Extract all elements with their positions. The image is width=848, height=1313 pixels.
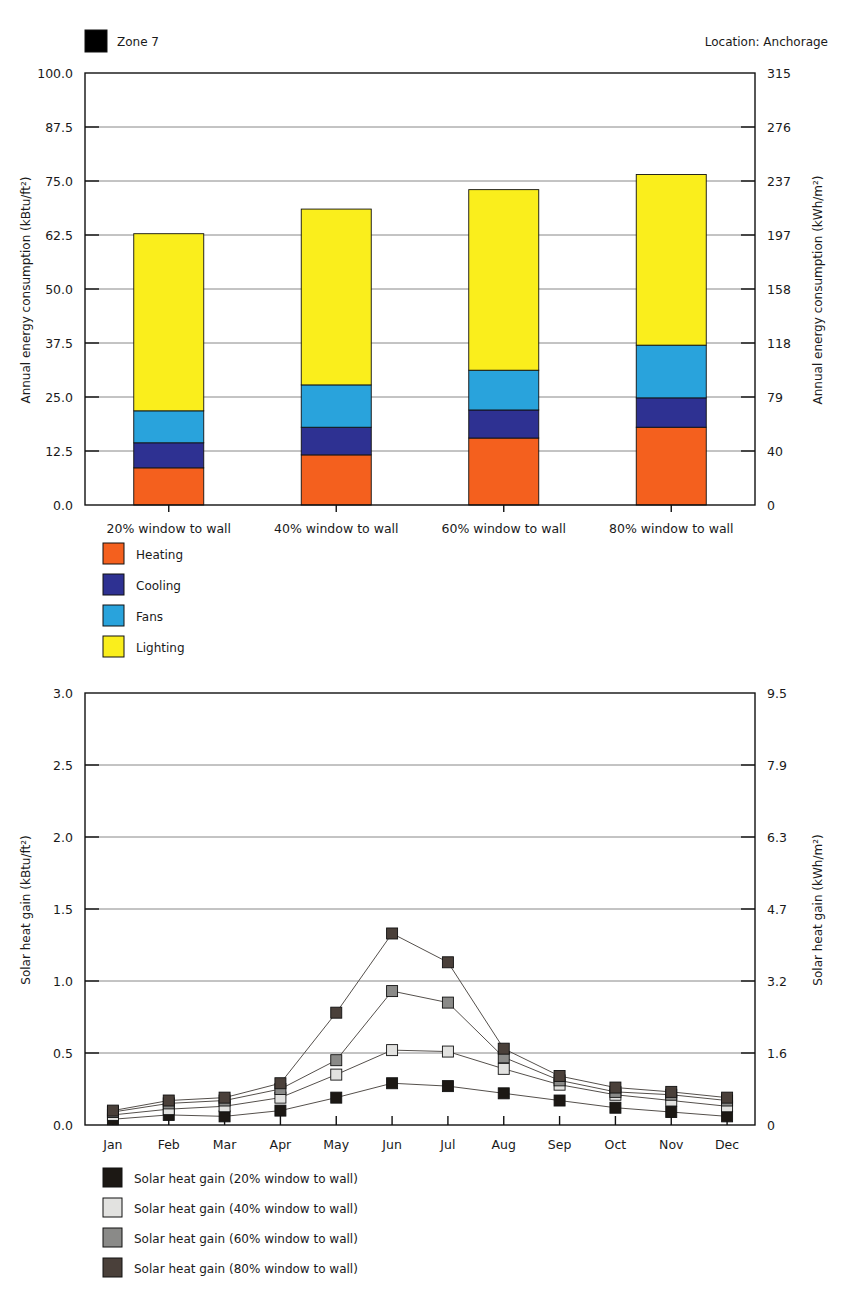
data-point-marker xyxy=(163,1095,174,1106)
category-label: 80% window to wall xyxy=(609,521,734,536)
top-right-tick-label: 158 xyxy=(767,282,791,297)
bottom-right-tick-label: 0 xyxy=(767,1118,775,1133)
data-point-marker xyxy=(498,1088,509,1099)
bar-segment-cooling xyxy=(469,410,539,438)
data-point-marker xyxy=(498,1063,509,1074)
bottom-left-tick-label: 1.0 xyxy=(53,974,73,989)
legend-label-series-2: Solar heat gain (40% window to wall) xyxy=(134,1202,358,1216)
top-left-axis-title: Annual energy consumption (kBtu/ft²) xyxy=(19,176,33,403)
month-label-oct: Oct xyxy=(605,1137,627,1152)
top-left-tick-label: 50.0 xyxy=(45,282,73,297)
legend-swatch-series-2 xyxy=(103,1198,122,1217)
legend-label-cooling: Cooling xyxy=(136,579,181,593)
bar-segment-cooling xyxy=(134,443,204,468)
legend-label-series-4: Solar heat gain (80% window to wall) xyxy=(134,1262,358,1276)
data-point-marker xyxy=(610,1102,621,1113)
data-point-marker xyxy=(331,1007,342,1018)
month-label-jul: Jul xyxy=(439,1137,455,1152)
bottom-right-tick-label: 7.9 xyxy=(767,758,787,773)
data-point-marker xyxy=(666,1086,677,1097)
data-point-marker xyxy=(442,997,453,1008)
bottom-right-tick-label: 9.5 xyxy=(767,686,787,701)
bottom-right-tick-label: 6.3 xyxy=(767,830,787,845)
month-label-nov: Nov xyxy=(659,1137,684,1152)
bottom-right-axis-title: Solar heat gain (kWh/m²) xyxy=(811,834,825,985)
bar-segment-cooling xyxy=(301,427,371,455)
bottom-left-tick-label: 0.0 xyxy=(53,1118,73,1133)
data-point-marker xyxy=(219,1092,230,1103)
legend-swatch-lighting xyxy=(103,636,124,657)
top-right-tick-label: 315 xyxy=(767,66,791,81)
bottom-left-tick-label: 3.0 xyxy=(53,686,73,701)
bar-segment-fans xyxy=(469,370,539,410)
bar-segment-fans xyxy=(301,385,371,427)
data-point-marker xyxy=(442,957,453,968)
bottom-legend: Solar heat gain (20% window to wall)Sola… xyxy=(103,1168,358,1277)
series-line xyxy=(113,991,727,1112)
data-point-marker xyxy=(387,928,398,939)
solar-heat-gain-chart: Solar heat gain (kBtu/ft²) Solar heat ga… xyxy=(0,675,848,1313)
zone-color-swatch xyxy=(85,30,107,52)
data-point-marker xyxy=(107,1105,118,1116)
data-point-marker xyxy=(722,1111,733,1122)
bar-segment-fans xyxy=(636,345,706,398)
line-series xyxy=(107,928,732,1125)
top-right-tick-label: 79 xyxy=(767,390,783,405)
top-left-tick-label: 37.5 xyxy=(45,336,73,351)
top-right-tick-label: 276 xyxy=(767,120,791,135)
month-label-may: May xyxy=(323,1137,349,1152)
bottom-gridlines xyxy=(85,765,755,1053)
top-left-tick-label: 87.5 xyxy=(45,120,73,135)
top-right-tick-label: 237 xyxy=(767,174,791,189)
data-point-marker xyxy=(219,1111,230,1122)
top-left-tick-label: 12.5 xyxy=(45,444,73,459)
top-left-tick-label: 25.0 xyxy=(45,390,73,405)
category-label: 60% window to wall xyxy=(441,521,566,536)
top-left-tick-label: 75.0 xyxy=(45,174,73,189)
annual-energy-consumption-chart: Zone 7 Location: Anchorage Annual energy… xyxy=(0,0,848,675)
zone-label: Zone 7 xyxy=(117,35,159,49)
data-point-marker xyxy=(387,1078,398,1089)
data-point-marker xyxy=(554,1071,565,1082)
top-right-tick-labels: 31527623719715811879400 xyxy=(767,66,791,513)
category-label: 20% window to wall xyxy=(106,521,231,536)
bar-segment-lighting xyxy=(636,175,706,346)
month-label-jun: Jun xyxy=(381,1137,402,1152)
category-label: 40% window to wall xyxy=(274,521,399,536)
month-label-dec: Dec xyxy=(715,1137,739,1152)
bar-segment-lighting xyxy=(469,190,539,371)
series-line xyxy=(113,933,727,1110)
bottom-left-tick-label: 2.5 xyxy=(53,758,73,773)
top-right-tick-label: 197 xyxy=(767,228,791,243)
top-right-tick-label: 40 xyxy=(767,444,783,459)
bar-segment-lighting xyxy=(301,209,371,385)
data-point-marker xyxy=(331,1069,342,1080)
data-point-marker xyxy=(387,1045,398,1056)
bottom-x-tickmarks xyxy=(113,1116,727,1125)
top-left-tick-labels: 100.087.575.062.550.037.525.012.50.0 xyxy=(37,66,73,513)
data-point-marker xyxy=(442,1046,453,1057)
bottom-right-tick-label: 3.2 xyxy=(767,974,787,989)
bar-segment-heating xyxy=(469,438,539,505)
bottom-left-axis-title: Solar heat gain (kBtu/ft²) xyxy=(19,835,33,984)
bottom-left-tick-labels: 3.02.52.01.51.00.50.0 xyxy=(53,686,73,1133)
data-point-marker xyxy=(666,1107,677,1118)
data-point-marker xyxy=(722,1092,733,1103)
month-label-mar: Mar xyxy=(213,1137,237,1152)
data-point-marker xyxy=(554,1095,565,1106)
legend-label-series-1: Solar heat gain (20% window to wall) xyxy=(134,1172,358,1186)
legend-swatch-series-4 xyxy=(103,1258,122,1277)
data-point-marker xyxy=(275,1105,286,1116)
data-point-marker xyxy=(275,1078,286,1089)
bar-segment-lighting xyxy=(134,234,204,411)
month-label-feb: Feb xyxy=(158,1137,180,1152)
series-line xyxy=(113,1050,727,1115)
month-labels: JanFebMarAprMayJunJulAugSepOctNovDec xyxy=(102,1137,739,1152)
month-label-sep: Sep xyxy=(548,1137,572,1152)
data-point-marker xyxy=(442,1081,453,1092)
location-label: Location: Anchorage xyxy=(705,35,828,49)
month-label-apr: Apr xyxy=(270,1137,292,1152)
bottom-left-tick-label: 1.5 xyxy=(53,902,73,917)
bar-segment-heating xyxy=(636,427,706,505)
top-right-axis-title: Annual energy consumption (kWh/m²) xyxy=(811,176,825,405)
